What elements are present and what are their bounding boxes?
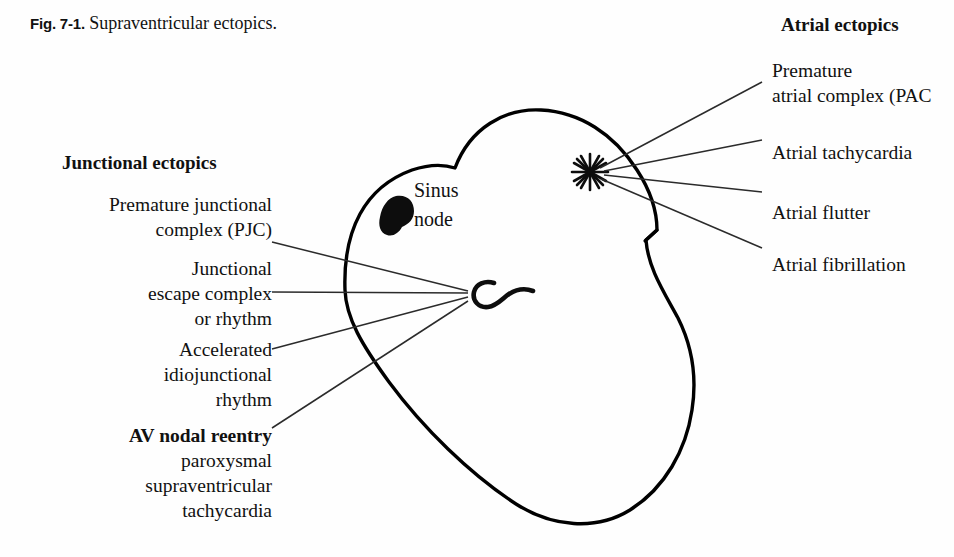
figure-page: Fig. 7-1. Supraventricular ectopics. xyxy=(0,0,954,557)
label-line: node xyxy=(414,205,458,234)
label-line: rhythm xyxy=(164,387,272,412)
heart-outline-path xyxy=(345,110,694,524)
label-av-nodal-reentry: AV nodal reentry paroxysmal supraventric… xyxy=(129,423,272,523)
leader-pac xyxy=(600,82,762,168)
label-line: Atrial fibrillation xyxy=(772,252,906,277)
av-node-hook-icon xyxy=(474,282,533,307)
label-line: Junctional xyxy=(148,256,272,281)
label-premature-junctional-complex: Premature junctional complex (PJC) xyxy=(109,192,272,242)
label-line: complex (PJC) xyxy=(109,217,272,242)
label-junctional-escape-complex: Junctional escape complex or rhythm xyxy=(148,256,272,331)
leader-aflut xyxy=(604,175,762,192)
junctional-heading: Junctional ectopics xyxy=(62,152,217,174)
label-atrial-tachycardia: Atrial tachycardia xyxy=(772,140,912,165)
atrial-leader-lines xyxy=(600,82,762,248)
label-line: escape complex xyxy=(148,281,272,306)
label-line: supraventricular xyxy=(129,473,272,498)
leader-escape xyxy=(272,292,468,293)
sinus-node-blob-icon xyxy=(379,196,414,236)
leader-pjc xyxy=(272,242,468,291)
label-line: idiojunctional xyxy=(164,362,272,387)
label-line: Atrial flutter xyxy=(772,200,870,225)
leader-accel xyxy=(272,297,468,349)
label-line: Sinus xyxy=(414,176,458,205)
label-line: or rhythm xyxy=(148,306,272,331)
label-line: Premature junctional xyxy=(109,192,272,217)
heart-right-notch xyxy=(645,230,657,241)
label-atrial-fibrillation: Atrial fibrillation xyxy=(772,252,906,277)
label-line: Atrial tachycardia xyxy=(772,140,912,165)
label-line-bold: AV nodal reentry xyxy=(129,423,272,448)
leader-avnrt xyxy=(272,301,468,428)
label-line: Premature xyxy=(772,58,932,83)
asterisk-icon xyxy=(572,154,608,190)
label-line: tachycardia xyxy=(129,498,272,523)
atrial-heading: Atrial ectopics xyxy=(781,14,899,36)
label-premature-atrial-complex: Premature atrial complex (PAC xyxy=(772,58,932,108)
label-line: atrial complex (PAC xyxy=(772,83,932,108)
label-line: paroxysmal xyxy=(129,448,272,473)
junctional-leader-lines xyxy=(272,242,468,428)
label-atrial-flutter: Atrial flutter xyxy=(772,200,870,225)
label-accelerated-idiojunctional-rhythm: Accelerated idiojunctional rhythm xyxy=(164,337,272,412)
label-line: Accelerated xyxy=(164,337,272,362)
label-sinus-node: Sinus node xyxy=(414,176,458,234)
